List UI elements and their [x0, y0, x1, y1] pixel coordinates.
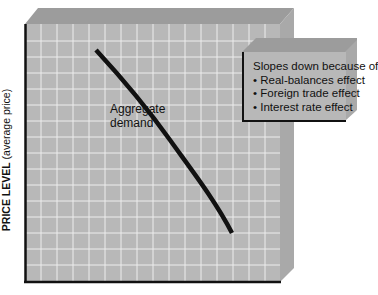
curve-label-line1: Aggregate [110, 102, 165, 116]
annotation-box-top [242, 38, 357, 52]
y-axis-label-bold: PRICE LEVEL [0, 162, 12, 231]
annotation-text: Slopes down because of • Real-balances e… [253, 60, 378, 114]
curve-label: Aggregate demand [110, 102, 165, 130]
annotation-item: • Real-balances effect [253, 74, 378, 88]
chart-top-face [25, 8, 294, 24]
curve-label-line2: demand [110, 116, 165, 130]
annotation-heading: Slopes down because of [253, 60, 378, 74]
annotation-item: • Foreign trade effect [253, 87, 378, 101]
annotation-item: • Interest rate effect [253, 101, 378, 115]
y-axis-label-note: (average price) [0, 89, 12, 163]
